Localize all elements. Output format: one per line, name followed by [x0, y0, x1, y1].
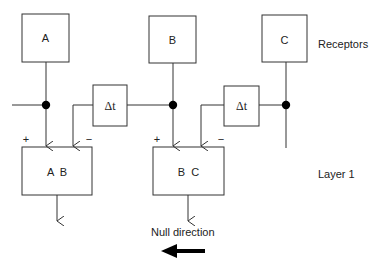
node-a	[42, 101, 50, 109]
delay-2-label: Δt	[236, 99, 248, 113]
reichardt-detector-diagram: A B C Receptors Δt Δt A B + − B C	[0, 0, 376, 264]
left-arrow-icon	[161, 244, 205, 258]
receptor-b: B	[149, 16, 196, 63]
receptor-a-label: A	[42, 32, 50, 44]
unit-bc-label: B C	[178, 166, 199, 178]
delay-box-1: Δt	[93, 85, 127, 126]
node-c	[282, 101, 290, 109]
unit-ab-plus-sign: +	[23, 133, 29, 145]
unit-ab: A B + −	[22, 133, 92, 221]
unit-bc-plus-sign: +	[154, 133, 160, 145]
receptor-c: C	[262, 15, 307, 62]
delay-box-2: Δt	[224, 86, 259, 126]
node-b	[169, 101, 177, 109]
unit-bc-minus-sign: −	[218, 133, 224, 145]
null-direction-label: Null direction	[151, 226, 215, 238]
layer-1-label: Layer 1	[318, 168, 355, 180]
unit-ab-minus-sign: −	[86, 133, 92, 145]
receptor-a: A	[22, 14, 69, 62]
receptor-c-label: C	[281, 34, 289, 46]
receptors-label: Receptors	[318, 38, 369, 50]
delay-1-label: Δt	[104, 99, 116, 113]
unit-bc: B C + −	[153, 133, 224, 221]
unit-ab-label: A B	[47, 166, 67, 178]
receptor-b-label: B	[169, 34, 176, 46]
